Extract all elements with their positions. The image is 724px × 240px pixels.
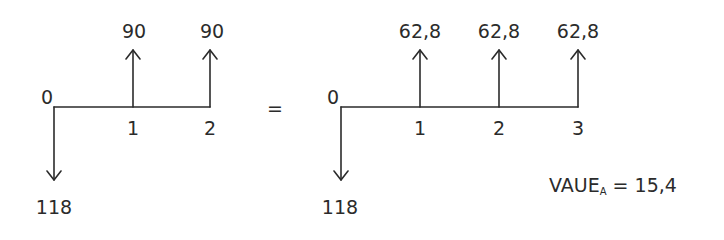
result-name: VAUE — [549, 174, 600, 196]
right-inflow-2: 62,8 — [478, 22, 520, 41]
right-origin-label: 0 — [327, 88, 339, 107]
result-operator: = — [613, 174, 629, 196]
right-period-3: 3 — [572, 119, 584, 138]
right-inflow-3: 62,8 — [557, 22, 599, 41]
right-outflow-label: 118 — [322, 198, 358, 217]
left-inflow-2: 90 — [200, 22, 224, 41]
right-inflow-1: 62,8 — [399, 22, 441, 41]
left-period-2: 2 — [204, 119, 216, 138]
result-subscript: A — [600, 186, 607, 197]
right-period-2: 2 — [493, 119, 505, 138]
result-value: 15,4 — [635, 174, 677, 196]
right-timeline — [334, 50, 585, 180]
left-outflow-label: 118 — [36, 198, 72, 217]
left-timeline — [47, 50, 217, 180]
left-origin-label: 0 — [41, 88, 53, 107]
left-period-1: 1 — [127, 119, 139, 138]
right-period-1: 1 — [414, 119, 426, 138]
equals-sign: = — [267, 99, 283, 118]
result-equation: VAUEA = 15,4 — [549, 176, 677, 197]
left-inflow-1: 90 — [122, 22, 146, 41]
